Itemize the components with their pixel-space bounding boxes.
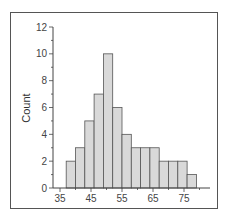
- y-tick-label: 4: [41, 129, 47, 140]
- histogram-bar: [187, 175, 196, 188]
- y-tick-label: 8: [41, 75, 47, 86]
- histogram-bar: [94, 94, 103, 188]
- histogram-chart: 0246810123545556575Count: [0, 0, 227, 219]
- histogram-bar: [113, 108, 122, 189]
- histogram-bar: [159, 161, 168, 188]
- y-tick-label: 0: [41, 183, 47, 194]
- histogram-bar: [122, 134, 131, 188]
- x-tick-label: 55: [116, 193, 128, 204]
- y-tick-label: 6: [41, 102, 47, 113]
- histogram-bar: [141, 148, 150, 188]
- histogram-bar: [178, 161, 187, 188]
- histogram-bar: [66, 161, 75, 188]
- y-axis-label: Count: [20, 93, 32, 122]
- x-tick-label: 45: [85, 193, 97, 204]
- histogram-bar: [103, 54, 112, 188]
- y-tick-label: 12: [36, 22, 48, 33]
- histogram-bar: [169, 161, 178, 188]
- y-tick-label: 10: [36, 48, 48, 59]
- x-tick-label: 65: [147, 193, 159, 204]
- histogram-bar: [131, 148, 140, 188]
- histogram-bar: [76, 148, 85, 188]
- histogram-bar: [85, 121, 94, 188]
- y-tick-label: 2: [41, 156, 47, 167]
- x-tick-label: 35: [54, 193, 66, 204]
- histogram-bar: [150, 148, 159, 188]
- x-tick-label: 75: [178, 193, 190, 204]
